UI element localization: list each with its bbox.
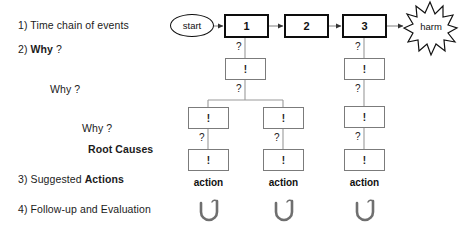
cause-box-left-2a[interactable]: ! (188, 107, 229, 129)
start-node-label: start (183, 20, 201, 31)
cause-box-right-1[interactable]: ! (344, 58, 385, 80)
branch-lines-left (208, 37, 283, 150)
why-level-2-label: Why ? (50, 83, 80, 95)
action-label-1: action (188, 177, 229, 188)
event-box-2-label: 2 (303, 20, 309, 32)
cause-mark: ! (363, 155, 366, 166)
action-label-3: action (344, 177, 385, 188)
event-box-3-label: 3 (361, 20, 367, 32)
step-4-label: 4) Follow-up and Evaluation (18, 203, 151, 215)
harm-text: harm (420, 21, 442, 32)
why-mark-1: ? (236, 41, 242, 52)
cause-box-right-2[interactable]: ! (344, 106, 385, 128)
cause-mark: ! (282, 113, 285, 124)
cause-mark: ! (363, 64, 366, 75)
followup-arcs (201, 201, 373, 220)
root-causes-label: Root Causes (88, 143, 153, 155)
event-box-2[interactable]: 2 (284, 14, 329, 38)
why-level-3-label: Why ? (82, 122, 112, 134)
cause-box-left-2b[interactable]: ! (263, 107, 304, 129)
why-mark-5: ? (355, 41, 361, 52)
step-2-label: 2) Why ? (18, 43, 62, 55)
cause-mark: ! (363, 112, 366, 123)
event-box-1-label: 1 (243, 20, 249, 32)
why-mark-3: ? (199, 132, 205, 143)
cause-mark: ! (207, 155, 210, 166)
harm-node-label: harm (410, 20, 452, 33)
start-node[interactable]: start (170, 14, 214, 37)
why-mark-6: ? (355, 83, 361, 94)
why-mark-7: ? (355, 131, 361, 142)
event-box-1[interactable]: 1 (224, 14, 269, 38)
cause-mark: ! (207, 113, 210, 124)
cause-box-left-1[interactable]: ! (225, 58, 266, 80)
cause-box-left-3a[interactable]: ! (188, 149, 229, 171)
event-box-3[interactable]: 3 (342, 14, 387, 38)
cause-mark: ! (244, 64, 247, 75)
why-mark-2: ? (236, 83, 242, 94)
step-1-label: 1) Time chain of events (18, 19, 129, 31)
cause-mark: ! (282, 155, 285, 166)
diagram-canvas: 1) Time chain of events 2) Why ? Why ? W… (0, 0, 459, 231)
cause-box-left-3b[interactable]: ! (263, 149, 304, 171)
why-mark-4: ? (274, 132, 280, 143)
action-label-2: action (263, 177, 304, 188)
step-3-label: 3) Suggested Actions (18, 173, 124, 185)
cause-box-right-3[interactable]: ! (344, 149, 385, 171)
